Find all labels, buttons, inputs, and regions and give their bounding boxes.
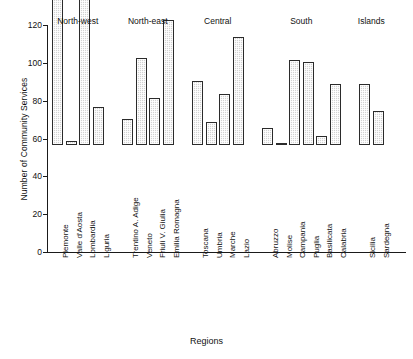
- group-header: North-west: [57, 16, 98, 26]
- bar: [66, 141, 77, 145]
- category-label: Veneto: [145, 233, 154, 258]
- category-label: Lazio: [242, 239, 251, 258]
- x-axis-title: Regions: [0, 336, 413, 346]
- category-label: Sicilia: [368, 237, 377, 258]
- bar: [163, 20, 174, 145]
- category-label: Calabria: [339, 228, 348, 258]
- category-label: Toscana: [201, 228, 210, 258]
- bar: [136, 58, 147, 145]
- bar: [122, 119, 133, 145]
- group-header: South: [290, 16, 312, 26]
- bar: [303, 62, 314, 145]
- category-label: Abruzzo: [271, 229, 280, 258]
- category-label: Liguria: [102, 234, 111, 258]
- plot-area: [0, 0, 413, 252]
- category-label: Friuli V. Giulia: [158, 209, 167, 258]
- x-axis-line: [47, 252, 406, 253]
- bar: [93, 107, 104, 145]
- bar: [233, 37, 244, 145]
- category-label: Puglia: [312, 236, 321, 258]
- category-label: Trentino A. Adige: [131, 197, 140, 258]
- category-label: Campania: [298, 222, 307, 258]
- category-label: Piemonte: [61, 224, 70, 258]
- group-header: Islands: [358, 16, 385, 26]
- bar: [206, 122, 217, 145]
- category-label: Molise: [285, 235, 294, 258]
- bar: [373, 111, 384, 145]
- bar: [276, 143, 287, 145]
- category-label: Lombardia: [88, 220, 97, 258]
- bar: [219, 94, 230, 145]
- category-label: Umbria: [215, 232, 224, 258]
- bar-chart: Number of Community Services 02040608010…: [0, 0, 413, 359]
- bar: [192, 81, 203, 145]
- bar: [330, 84, 341, 145]
- bar: [262, 128, 273, 145]
- category-label: Basilicata: [325, 224, 334, 258]
- bar: [316, 136, 327, 145]
- category-label: Emilia Romagna: [172, 199, 181, 258]
- group-header: North-east: [128, 16, 168, 26]
- bar: [289, 60, 300, 145]
- group-header: Central: [204, 16, 231, 26]
- category-label: Sardegna: [382, 223, 391, 258]
- bar: [359, 84, 370, 145]
- category-label: Valle d'Aosta: [75, 212, 84, 258]
- category-label: Marche: [228, 231, 237, 258]
- bar: [149, 98, 160, 145]
